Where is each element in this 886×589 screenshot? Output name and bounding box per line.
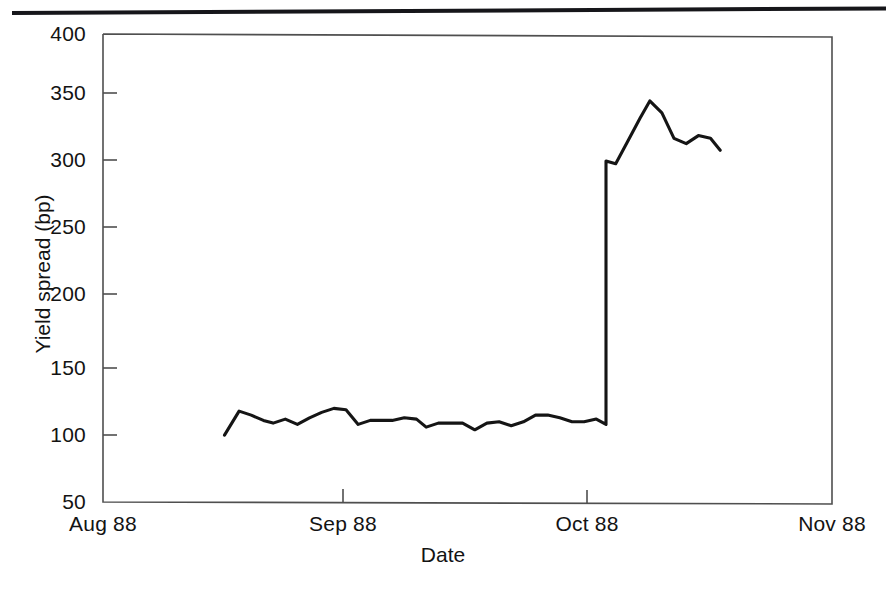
x-axis-title: Date — [0, 543, 886, 567]
plot-frame — [103, 34, 832, 504]
x-tick-label-oct-88: Oct 88 — [527, 512, 647, 536]
data-line-yield-spread — [225, 101, 721, 435]
y-tick-label-50: 50 — [20, 490, 86, 514]
y-axis-ticks — [103, 93, 117, 435]
yield-spread-chart-figure: 400 350 300 250 200 150 100 50 Aug 88 Se… — [0, 0, 886, 589]
x-tick-label-aug-88: Aug 88 — [43, 512, 163, 536]
x-tick-label-nov-88: Nov 88 — [772, 512, 886, 536]
y-tick-label-100: 100 — [20, 423, 86, 447]
x-axis-ticks — [343, 489, 587, 504]
y-tick-label-350: 350 — [20, 81, 86, 105]
y-axis-title: Yield spread (bp) — [31, 159, 55, 389]
y-tick-label-400: 400 — [20, 22, 86, 46]
chart-canvas — [0, 0, 886, 589]
x-tick-label-sep-88: Sep 88 — [283, 512, 403, 536]
